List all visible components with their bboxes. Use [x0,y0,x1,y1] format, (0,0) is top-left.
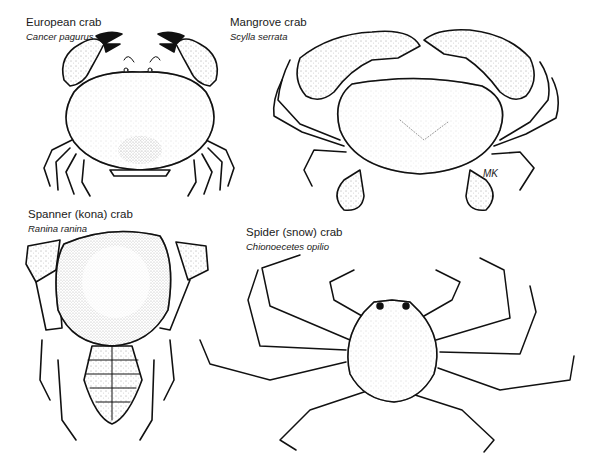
spider-crab-drawing [200,255,574,452]
illustration-plate [0,0,590,460]
european-crab-drawing [44,32,234,196]
mangrove-crab-drawing [274,30,559,211]
spanner-crab-drawing [26,232,208,441]
